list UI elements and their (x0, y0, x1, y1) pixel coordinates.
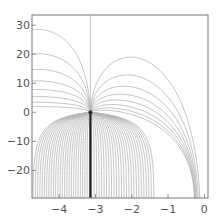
y-tick-label: −20 (7, 164, 30, 177)
x-tick-label: 0 (201, 203, 208, 216)
y-tick-label: 0 (23, 106, 30, 119)
field-line-plot: −4−3−2−10 −20−100102030 (0, 0, 222, 223)
field-line (32, 107, 90, 113)
y-axis-tick-labels: −20−100102030 (7, 19, 30, 177)
x-tick-label: −4 (51, 203, 67, 216)
field-line (32, 29, 90, 112)
x-tick-label: −3 (87, 203, 103, 216)
field-line (32, 69, 90, 112)
y-tick-label: −10 (7, 135, 30, 148)
y-tick-label: 20 (16, 48, 30, 61)
field-line (90, 112, 136, 198)
y-tick-label: 30 (16, 19, 30, 32)
y-tick-label: 10 (16, 77, 30, 90)
field-lines (32, 15, 200, 198)
x-tick-label: −2 (124, 203, 140, 216)
x-axis-tick-labels: −4−3−2−10 (51, 203, 208, 216)
x-tick-label: −1 (160, 203, 176, 216)
